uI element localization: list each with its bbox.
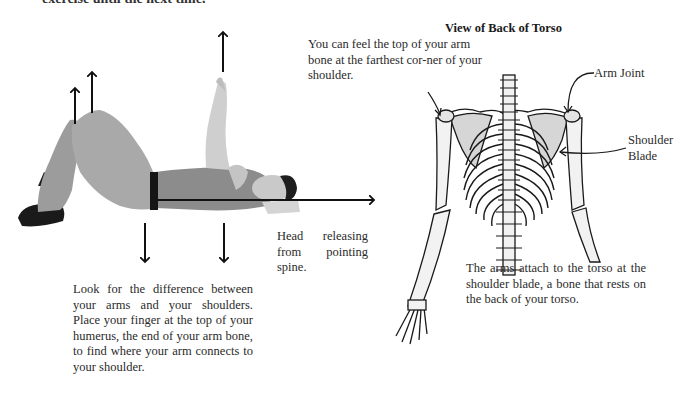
head-releasing-caption: Head releasing from pointing spine. bbox=[277, 229, 368, 276]
raised-arm bbox=[206, 80, 231, 170]
right-humerus bbox=[566, 118, 584, 210]
head-pad bbox=[262, 200, 300, 214]
arm-joint-label: Arm Joint bbox=[594, 66, 644, 82]
right-shoulder-blade bbox=[528, 113, 568, 168]
arms-shoulders-caption: Look for the difference between your arm… bbox=[73, 282, 253, 375]
arrow-feel-top-arm bbox=[428, 92, 440, 114]
figure-title: View of Back of Torso bbox=[445, 21, 562, 36]
arms-attach-caption: The arms attach to the torso at the shou… bbox=[466, 261, 646, 308]
left-forearm bbox=[408, 210, 450, 310]
spine bbox=[503, 75, 515, 275]
pants-front-leg bbox=[72, 110, 155, 210]
right-forearm bbox=[572, 208, 600, 262]
person-figure bbox=[18, 78, 300, 227]
shoulder-blade-label-line2: Blade bbox=[628, 149, 673, 165]
feel-arm-bone-text: You can feel the top of your arm bone at… bbox=[308, 37, 484, 84]
shoulder-blade-label-line1: Shoulder bbox=[628, 133, 673, 149]
shoulder-blade-label: Shoulder Blade bbox=[628, 133, 673, 164]
left-humerus bbox=[436, 118, 452, 210]
left-hand bbox=[396, 300, 427, 344]
belt bbox=[150, 172, 158, 210]
